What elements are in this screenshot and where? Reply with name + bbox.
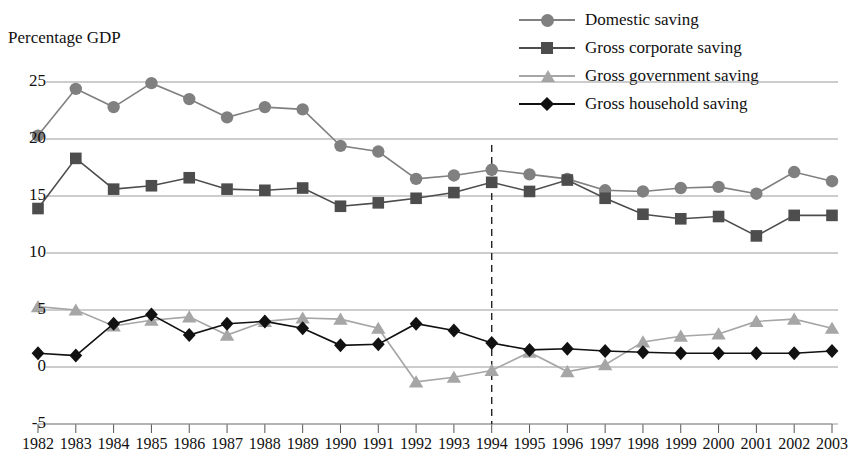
x-axis-tick-label: 1999: [662, 435, 700, 453]
y-axis-tick-label: -5: [0, 413, 46, 433]
data-point: [485, 364, 499, 376]
data-point: [410, 173, 422, 185]
series-line: [38, 158, 832, 236]
data-point: [108, 183, 120, 195]
data-point: [70, 83, 82, 95]
data-point: [562, 174, 574, 186]
x-axis-tick-label: 1982: [19, 435, 57, 453]
data-point: [448, 169, 460, 181]
data-point: [826, 344, 839, 358]
data-point: [69, 349, 82, 363]
x-axis-tick-label: 1993: [435, 435, 473, 453]
x-axis-tick-label: 1985: [132, 435, 170, 453]
data-point: [788, 210, 800, 222]
x-axis-tick-label: 1996: [548, 435, 586, 453]
chart-canvas: [0, 0, 853, 457]
data-point: [410, 192, 422, 204]
data-point: [787, 313, 801, 325]
data-point: [485, 336, 498, 350]
data-point: [561, 342, 574, 356]
data-point: [486, 164, 498, 176]
data-point: [259, 101, 271, 113]
data-point: [334, 338, 347, 352]
x-axis-tick-label: 1990: [321, 435, 359, 453]
data-point: [107, 101, 119, 113]
x-axis-tick-label: 1984: [95, 435, 133, 453]
data-point: [486, 177, 498, 189]
data-point: [259, 185, 271, 197]
data-point: [523, 168, 535, 180]
y-axis-tick-label: 10: [0, 242, 46, 262]
data-point: [183, 172, 195, 184]
data-point: [524, 186, 536, 198]
x-axis-tick-label: 1998: [624, 435, 662, 453]
series-gross-corporate-saving: [32, 153, 838, 242]
data-point: [296, 103, 308, 115]
x-axis-tick-label: 1992: [397, 435, 435, 453]
data-point: [372, 145, 384, 157]
x-axis-tick-label: 1991: [359, 435, 397, 453]
data-point: [221, 317, 234, 331]
x-axis-tick-label: 1995: [511, 435, 549, 453]
y-axis-tick-label: 0: [0, 356, 46, 376]
data-point: [711, 327, 725, 339]
x-axis-tick-label: 1988: [246, 435, 284, 453]
data-point: [221, 183, 233, 195]
x-axis-tick-label: 2000: [700, 435, 738, 453]
y-axis-tick-label: 20: [0, 128, 46, 148]
x-axis-tick-label: 2001: [737, 435, 775, 453]
y-axis-tick-label: 15: [0, 185, 46, 205]
figure-root: Percentage GDP Domestic savingGross corp…: [0, 0, 853, 457]
data-point: [297, 182, 309, 194]
data-point: [751, 230, 763, 242]
plot-area: -50510152025 198219831984198519861987198…: [0, 0, 853, 457]
data-point: [335, 200, 347, 212]
data-point: [637, 185, 649, 197]
data-point: [674, 346, 687, 360]
data-point: [334, 140, 346, 152]
data-point: [750, 346, 763, 360]
x-axis-tick-label: 1987: [208, 435, 246, 453]
data-point: [448, 187, 460, 199]
data-point: [712, 346, 725, 360]
data-point: [145, 77, 157, 89]
x-axis-tick-label: 2003: [813, 435, 851, 453]
data-point: [712, 181, 724, 193]
data-point: [599, 344, 612, 358]
x-axis-tick-label: 2002: [775, 435, 813, 453]
data-point: [598, 358, 612, 370]
data-point: [372, 337, 385, 351]
x-axis-tick-label: 1997: [586, 435, 624, 453]
data-point: [448, 324, 461, 338]
x-axis-tick-label: 1983: [57, 435, 95, 453]
data-point: [788, 346, 801, 360]
data-point: [146, 180, 158, 192]
data-point: [675, 182, 687, 194]
data-point: [183, 93, 195, 105]
data-point: [70, 153, 82, 165]
x-axis-tick-label: 1986: [170, 435, 208, 453]
y-axis-tick-label: 5: [0, 299, 46, 319]
data-point: [182, 310, 196, 322]
data-point: [637, 208, 649, 220]
data-point: [410, 317, 423, 331]
y-axis-tick-label: 25: [0, 71, 46, 91]
data-point: [183, 328, 196, 342]
x-axis-tick-label: 1994: [473, 435, 511, 453]
data-point: [372, 197, 384, 209]
data-point: [713, 211, 725, 223]
data-point: [826, 175, 838, 187]
x-axis-tick-label: 1989: [284, 435, 322, 453]
data-point: [826, 210, 838, 222]
data-point: [221, 111, 233, 123]
series-line: [38, 83, 832, 194]
data-point: [750, 188, 762, 200]
data-point: [788, 166, 800, 178]
data-point: [599, 192, 611, 204]
data-point: [675, 213, 687, 225]
